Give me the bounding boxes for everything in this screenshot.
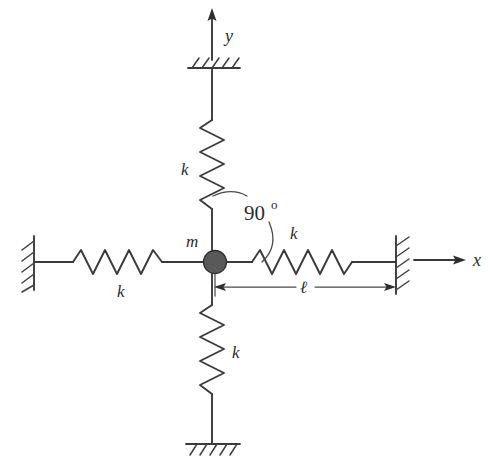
spring-left-label: k xyxy=(117,282,125,301)
spring-left-coils xyxy=(73,250,162,274)
spring-mass-diagram: y k k xyxy=(0,0,491,474)
mass: m xyxy=(186,232,227,274)
y-axis-label: y xyxy=(223,26,233,46)
left-wall-support xyxy=(22,236,34,292)
right-wall-hatching xyxy=(396,237,409,290)
angle-value-label: 90 xyxy=(244,201,265,225)
length-label: ℓ xyxy=(300,278,307,297)
spring-right-label: k xyxy=(290,224,298,243)
spring-bottom-label: k xyxy=(232,343,240,362)
x-axis: x xyxy=(414,250,481,270)
figure-caption-cropped xyxy=(0,458,491,474)
left-wall-hatching xyxy=(22,241,34,292)
mass-circle xyxy=(204,251,227,274)
spring-bottom-coils xyxy=(200,305,224,394)
ceiling-support xyxy=(188,58,240,68)
spring-right: k xyxy=(226,224,396,274)
angle-leader-to-vertical-spring xyxy=(213,192,247,196)
ground-support-hatching xyxy=(190,444,237,455)
figure-root: y k k xyxy=(0,0,491,474)
spring-right-coils xyxy=(252,250,352,274)
x-axis-label: x xyxy=(472,250,481,270)
length-dimension: ℓ xyxy=(214,273,396,297)
spring-bottom: k xyxy=(200,273,240,444)
ceiling-support-hatching xyxy=(192,58,239,68)
spring-left: k xyxy=(34,250,204,301)
angle-unit-label: o xyxy=(271,197,278,212)
mass-label: m xyxy=(186,232,198,251)
spring-top-coils xyxy=(200,120,224,209)
spring-top-label: k xyxy=(181,160,189,179)
spring-top: k xyxy=(181,68,224,251)
right-wall-support xyxy=(396,236,409,294)
angle-annotation: 90 o xyxy=(213,192,278,262)
ground-support xyxy=(186,444,240,455)
y-axis: y xyxy=(208,8,234,60)
